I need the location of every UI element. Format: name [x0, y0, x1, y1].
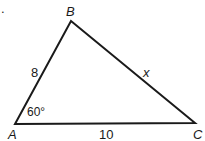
side-label-bc: x	[143, 66, 150, 79]
problem-marker: .	[1, 2, 5, 15]
vertex-label-c: C	[193, 128, 202, 141]
side-label-ab: 8	[31, 66, 38, 79]
side-label-ac: 10	[99, 128, 113, 141]
vertex-label-b: B	[66, 5, 75, 18]
angle-label-a: 60°	[27, 106, 45, 118]
vertex-label-a: A	[8, 128, 17, 141]
